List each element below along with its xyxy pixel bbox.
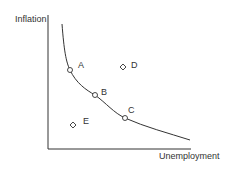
point-b-marker [93, 93, 98, 98]
x-axis-label: Unemployment [159, 152, 220, 161]
point-d-marker [120, 64, 126, 70]
point-d-label: D [131, 61, 138, 70]
point-e-label: E [83, 117, 89, 126]
point-a-marker [68, 68, 73, 73]
phillips-curve [62, 24, 190, 140]
point-a-label: A [78, 61, 84, 70]
point-c-label: C [128, 106, 135, 115]
point-c-marker [123, 116, 128, 121]
y-axis-label: Inflation [15, 15, 47, 24]
point-e-marker [70, 122, 76, 128]
point-b-label: B [101, 88, 107, 97]
phillips-curve-chart [0, 0, 225, 171]
